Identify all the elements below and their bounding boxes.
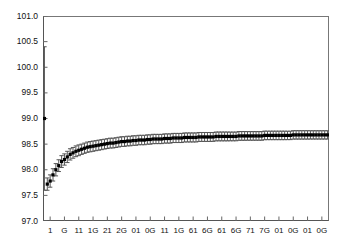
- data-point-marker: [172, 136, 175, 139]
- data-point-marker: [46, 183, 49, 186]
- data-point-marker: [186, 136, 189, 139]
- x-axis-tick-label: 11: [75, 227, 83, 235]
- x-axis-tick-label: 01: [131, 227, 140, 235]
- data-point-marker: [189, 136, 192, 139]
- data-point-marker: [149, 138, 152, 141]
- data-point-markers: [43, 117, 329, 186]
- data-point-marker: [254, 134, 257, 137]
- data-point-marker: [57, 164, 60, 167]
- x-axis-tick-label: 21: [103, 227, 112, 235]
- data-point-marker: [140, 138, 143, 141]
- data-point-marker: [146, 138, 149, 141]
- data-point-marker: [177, 136, 180, 139]
- data-point-marker: [51, 173, 54, 176]
- data-point-marker: [120, 140, 123, 143]
- x-axis-tick-label: 6G: [231, 227, 242, 235]
- data-point-marker: [326, 133, 329, 136]
- plot-canvas: [43, 16, 329, 221]
- data-point-marker: [232, 135, 235, 138]
- y-axis-tick-label: 99.5: [21, 88, 38, 97]
- y-axis-tick-label: 97.0: [21, 217, 38, 226]
- error-bars: [43, 47, 329, 191]
- x-axis-labels: 1G111G212G010G111G616G616G717G010G010G: [43, 227, 329, 241]
- x-axis-tick-label: 11: [160, 227, 168, 235]
- y-axis-tick-label: 97.5: [21, 191, 38, 200]
- data-point-marker: [249, 134, 252, 137]
- data-point-marker: [194, 136, 197, 139]
- data-point-marker: [77, 149, 80, 152]
- data-point-marker: [126, 139, 129, 142]
- y-axis-tick-label: 101.0: [17, 12, 38, 21]
- data-point-marker: [86, 146, 89, 149]
- x-axis-tick-label: 61: [189, 227, 198, 235]
- data-point-marker: [286, 134, 289, 137]
- data-point-marker: [203, 135, 206, 138]
- data-point-marker: [315, 133, 318, 136]
- data-point-marker: [134, 139, 137, 142]
- data-point-marker: [157, 137, 160, 140]
- data-point-marker: [309, 133, 312, 136]
- x-axis-tick-label: 01: [303, 227, 312, 235]
- data-point-marker: [263, 134, 266, 137]
- x-axis-tick-label: 0G: [317, 227, 328, 235]
- data-point-marker: [317, 133, 320, 136]
- data-point-marker: [209, 135, 212, 138]
- y-axis-tick-label: 100.5: [17, 37, 38, 46]
- data-point-marker: [117, 140, 120, 143]
- data-point-marker: [197, 135, 200, 138]
- x-axis-tick-label: 1G: [174, 227, 185, 235]
- data-point-marker: [137, 138, 140, 141]
- data-point-marker: [183, 136, 186, 139]
- data-point-marker: [277, 134, 280, 137]
- data-point-marker: [89, 145, 92, 148]
- data-point-marker: [272, 134, 275, 137]
- data-point-marker: [71, 151, 74, 154]
- data-point-marker: [220, 135, 223, 138]
- data-point-marker: [169, 137, 172, 140]
- data-point-marker: [94, 144, 97, 147]
- data-point-marker: [163, 137, 166, 140]
- data-point-marker: [60, 160, 63, 163]
- data-point-marker: [123, 140, 126, 143]
- data-point-marker: [266, 134, 269, 137]
- data-point-marker: [289, 134, 292, 137]
- x-axis-tick-label: G: [61, 227, 67, 235]
- x-axis-tick-label: 2G: [116, 227, 127, 235]
- data-point-marker: [106, 142, 109, 145]
- y-axis-labels: 101.0100.5100.099.599.098.598.097.597.0: [0, 0, 38, 247]
- data-point-marker: [103, 143, 106, 146]
- data-point-marker: [252, 134, 255, 137]
- data-point-marker: [257, 134, 260, 137]
- data-point-marker: [306, 133, 309, 136]
- data-point-marker: [297, 133, 300, 136]
- chart-screenshot: 101.0100.5100.099.599.098.598.097.597.0 …: [0, 0, 344, 247]
- data-point-marker: [54, 168, 57, 171]
- data-point-marker: [129, 139, 132, 142]
- data-point-marker: [260, 134, 263, 137]
- data-point-marker: [295, 133, 298, 136]
- data-point-marker: [323, 133, 326, 136]
- data-point-marker: [217, 135, 220, 138]
- y-axis-tick-label: 98.0: [21, 165, 38, 174]
- x-axis-tick-label: 61: [217, 227, 226, 235]
- data-point-marker: [312, 133, 315, 136]
- x-axis-tick-label: 01: [274, 227, 283, 235]
- data-point-marker: [229, 135, 232, 138]
- y-axis-tick-label: 100.0: [17, 63, 38, 72]
- data-point-marker: [246, 134, 249, 137]
- data-point-marker: [166, 137, 169, 140]
- data-point-marker: [109, 142, 112, 145]
- x-axis-tick-label: 7G: [259, 227, 270, 235]
- data-point-marker: [223, 135, 226, 138]
- data-point-marker: [100, 143, 103, 146]
- data-point-marker: [174, 136, 177, 139]
- x-axis-tick-label: 0G: [288, 227, 299, 235]
- data-point-marker: [111, 142, 114, 145]
- data-point-marker: [180, 136, 183, 139]
- data-point-marker: [43, 117, 46, 120]
- data-point-marker: [269, 134, 272, 137]
- x-axis-tick-label: 1G: [88, 227, 99, 235]
- data-point-marker: [200, 135, 203, 138]
- data-point-marker: [80, 148, 83, 151]
- data-point-marker: [63, 158, 66, 161]
